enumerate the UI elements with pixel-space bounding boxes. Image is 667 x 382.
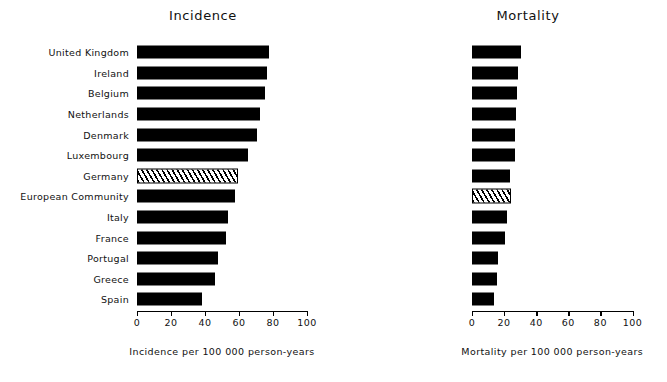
bar bbox=[137, 149, 248, 162]
category-label: Netherlands bbox=[68, 109, 129, 120]
bar bbox=[472, 231, 505, 244]
category-label: Portugal bbox=[87, 253, 129, 264]
x-axis-incidence: 020406080100 bbox=[137, 311, 307, 313]
bar bbox=[137, 231, 226, 244]
bar bbox=[472, 128, 515, 141]
category-label: Italy bbox=[107, 212, 129, 223]
bar bbox=[137, 272, 215, 285]
bar bbox=[137, 211, 228, 224]
x-axis-mortality: 020406080100 bbox=[472, 311, 633, 313]
x-tick-label: 100 bbox=[297, 317, 317, 328]
bar bbox=[472, 46, 521, 59]
category-label: Ireland bbox=[94, 67, 129, 78]
x-tick bbox=[536, 311, 537, 316]
bar bbox=[137, 108, 260, 121]
x-tick bbox=[171, 311, 172, 316]
bar bbox=[472, 211, 507, 224]
x-axis-title-incidence: Incidence per 100 000 person-years bbox=[113, 346, 331, 357]
figure: Incidence United KingdomIrelandLuxembour… bbox=[0, 0, 667, 382]
category-label: European Community bbox=[20, 191, 129, 202]
x-tick bbox=[568, 311, 569, 316]
bar-highlighted bbox=[472, 189, 511, 204]
category-label: France bbox=[96, 232, 129, 243]
x-tick-label: 0 bbox=[469, 317, 476, 328]
x-tick-label: 40 bbox=[530, 317, 543, 328]
x-tick bbox=[205, 311, 206, 316]
x-tick bbox=[307, 311, 308, 316]
category-label: United Kingdom bbox=[49, 47, 129, 58]
bar bbox=[472, 272, 497, 285]
bar bbox=[137, 46, 269, 59]
bar bbox=[137, 293, 202, 306]
x-axis-title-mortality: Mortality per 100 000 person-years bbox=[448, 346, 657, 357]
bar bbox=[137, 190, 235, 203]
category-label: Denmark bbox=[83, 129, 129, 140]
x-tick bbox=[633, 311, 634, 316]
x-tick bbox=[600, 311, 601, 316]
category-label: Germany bbox=[83, 170, 129, 181]
bar bbox=[472, 252, 498, 265]
chart-panel-mortality: Mortality United KingdomIrelandBelgiumNe… bbox=[333, 0, 667, 382]
bar bbox=[472, 87, 517, 100]
bar bbox=[472, 149, 515, 162]
bar bbox=[472, 293, 494, 306]
category-label: Luxembourg bbox=[67, 150, 129, 161]
x-tick-label: 80 bbox=[594, 317, 607, 328]
x-tick-label: 60 bbox=[232, 317, 245, 328]
bar bbox=[137, 66, 267, 79]
x-tick bbox=[472, 311, 473, 316]
bar-highlighted bbox=[137, 168, 238, 183]
x-tick-label: 40 bbox=[198, 317, 211, 328]
category-label: Spain bbox=[101, 294, 129, 305]
x-tick-label: 60 bbox=[562, 317, 575, 328]
x-tick-label: 20 bbox=[164, 317, 177, 328]
bar bbox=[137, 252, 218, 265]
category-label: Belgium bbox=[88, 88, 129, 99]
bar bbox=[472, 66, 518, 79]
x-tick bbox=[273, 311, 274, 316]
chart-title-mortality: Mortality bbox=[333, 8, 667, 23]
bar bbox=[472, 169, 510, 182]
bar bbox=[472, 108, 516, 121]
x-tick-label: 80 bbox=[266, 317, 279, 328]
x-tick bbox=[239, 311, 240, 316]
category-label: Greece bbox=[93, 273, 129, 284]
bar bbox=[137, 87, 265, 100]
x-tick bbox=[504, 311, 505, 316]
x-tick-label: 0 bbox=[134, 317, 141, 328]
chart-title-incidence: Incidence bbox=[0, 8, 370, 23]
bar bbox=[137, 128, 257, 141]
x-tick-label: 20 bbox=[498, 317, 511, 328]
x-tick-label: 100 bbox=[623, 317, 643, 328]
x-tick bbox=[137, 311, 138, 316]
